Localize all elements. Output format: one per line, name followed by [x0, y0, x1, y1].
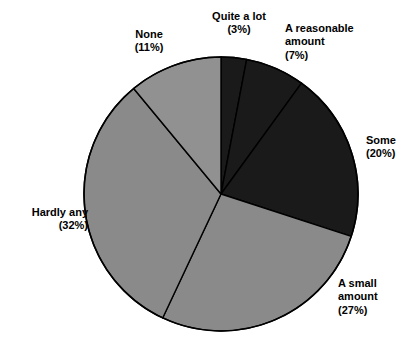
slice-label-a-small-amount: A small amount (27%)	[338, 277, 414, 317]
pie-chart-figure: Quite a lot (3%) A reasonable amount (7%…	[0, 0, 414, 364]
slice-label-some: Some (20%)	[366, 134, 414, 161]
slice-label-hardly-any: Hardly any (32%)	[4, 206, 88, 233]
slice-label-quite-a-lot: Quite a lot (3%)	[196, 10, 282, 37]
slice-label-none: None (11%)	[113, 28, 185, 55]
slice-label-a-reasonable-amount: A reasonable amount (7%)	[285, 22, 387, 62]
